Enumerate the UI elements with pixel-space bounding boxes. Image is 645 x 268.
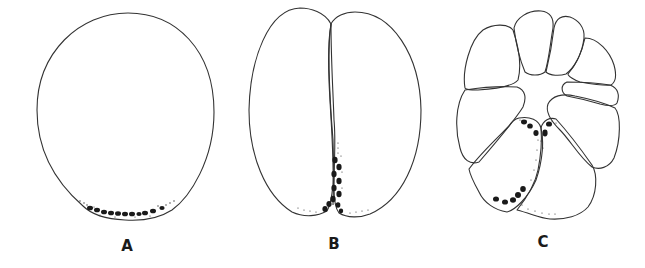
left-blastomere-outline [249, 8, 333, 216]
egg-outline [37, 13, 214, 220]
cell-mid-right-small [562, 82, 618, 105]
panel-label-a: A [121, 239, 133, 254]
panel-c-multicell [457, 11, 620, 219]
cell-bottom-left-macromere [469, 117, 543, 212]
cell-mid-left [457, 87, 525, 163]
panel-label-c: C [537, 235, 548, 250]
panel-label-b: B [328, 237, 339, 252]
panel-b-two-cell [249, 8, 421, 217]
right-blastomere-outline [331, 12, 421, 217]
cell-top-left [464, 25, 519, 90]
granule-band [79, 200, 174, 217]
embryo-figure [0, 0, 645, 268]
cell-top-center-right [546, 16, 584, 75]
panel-a-egg [37, 13, 214, 220]
cell-bottom-right-macromere [517, 118, 596, 219]
cell-top-right [568, 38, 616, 85]
